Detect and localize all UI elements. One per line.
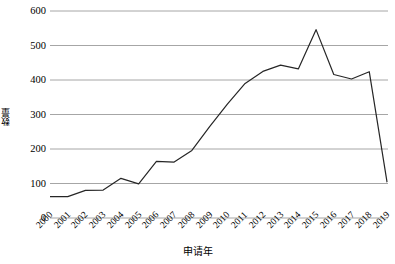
y-tick-label: 600 (16, 6, 46, 17)
y-axis-title: 数量 (0, 96, 14, 138)
y-tick-label: 500 (16, 41, 46, 52)
y-tick-label: 200 (16, 144, 46, 155)
x-axis-title: 申请年 (0, 246, 395, 258)
y-tick-label: 300 (16, 110, 46, 121)
line-chart: 数量 0100200300400500600 20002001200220032… (0, 0, 395, 264)
data-series-line (50, 30, 387, 197)
y-tick-label: 100 (16, 179, 46, 190)
y-tick-label: 400 (16, 75, 46, 86)
